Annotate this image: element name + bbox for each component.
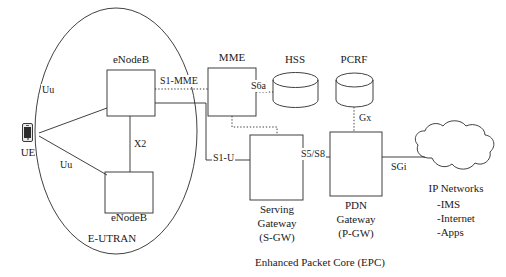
epc-caption: Enhanced Packet Core (EPC) (255, 256, 385, 269)
network-architecture-diagram: UE eNodeB eNodeB MME HSS PCRF Serving Ga… (0, 0, 506, 277)
interface-label-uu-top: Uu (41, 84, 55, 96)
enodeb-top-box (107, 70, 155, 116)
enodeb-top-label: eNodeB (113, 53, 149, 66)
ip-networks-label: IP Networks (429, 182, 484, 195)
interface-label-s1-u: S1-U (212, 152, 235, 164)
hss-label: HSS (285, 53, 305, 66)
pcrf-label: PCRF (341, 53, 368, 66)
sgw-label-line1: Serving (260, 203, 294, 216)
link-uu-top (39, 108, 107, 133)
link-mme-to-sgw (232, 116, 277, 135)
interface-label-s5-s8: S5/S8 (300, 148, 326, 160)
mobile-phone-icon (22, 123, 33, 142)
phone-screen (24, 127, 31, 138)
phone-home-button (27, 138, 30, 141)
interface-label-s6a: S6a (250, 80, 267, 92)
link-s1-u (155, 103, 250, 160)
hss-cylinder (273, 73, 318, 108)
pgw-box (330, 132, 382, 196)
mme-label: MME (219, 51, 245, 64)
sgw-label-line3: (S-GW) (259, 231, 294, 244)
ip-networks-list: -IMS -Internet -Apps (437, 198, 475, 239)
ue-label: UE (21, 146, 36, 159)
ip-networks-cloud (415, 121, 494, 169)
diagram-canvas (0, 0, 506, 277)
interface-label-sgi: SGi (390, 161, 408, 173)
pgw-label-line1: PDN (345, 199, 367, 212)
pgw-label-line3: (P-GW) (338, 227, 373, 240)
sgw-label-line2: Gateway (257, 217, 296, 230)
interface-label-gx: Gx (358, 112, 372, 124)
ip-networks-item-internet: -Internet (437, 212, 475, 226)
interface-label-x2: X2 (133, 138, 147, 150)
e-utran-label: E-UTRAN (88, 232, 136, 245)
enodeb-bottom-label: eNodeB (111, 211, 147, 224)
enodeb-bottom-box (105, 172, 153, 213)
interface-label-s1-mme: S1-MME (159, 75, 199, 87)
sgw-box (250, 135, 303, 200)
mme-box (208, 68, 256, 116)
interface-label-uu-bottom: Uu (59, 159, 73, 171)
ip-networks-item-ims: -IMS (437, 198, 475, 212)
ip-networks-item-apps: -Apps (437, 226, 475, 240)
pgw-label-line2: Gateway (336, 213, 375, 226)
pcrf-cylinder (336, 73, 373, 107)
